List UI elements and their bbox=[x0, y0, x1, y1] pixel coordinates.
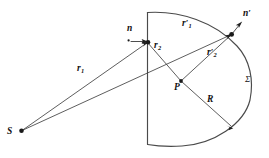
label-ray-r1-prime-subscript: 1 bbox=[188, 22, 191, 29]
optics-geometry-diagram: S P n n′ r1 r2 r′1 r′2 R Σ bbox=[0, 0, 269, 158]
normal-n-tail-dot bbox=[128, 39, 130, 41]
label-ray-r2-prime: r′2 bbox=[207, 48, 216, 58]
label-surface-sigma: Σ bbox=[245, 75, 250, 84]
source-point-dot bbox=[19, 129, 24, 134]
ray-r1-prime-line bbox=[22, 35, 232, 131]
label-ray-r2-subscript: 2 bbox=[158, 44, 161, 51]
label-field-point-p: P bbox=[174, 83, 180, 93]
ray-r1-line bbox=[22, 43, 148, 131]
ray-r2-prime-line bbox=[181, 35, 232, 82]
arc-surface-point-dot bbox=[229, 32, 234, 37]
label-ray-r1: r1 bbox=[77, 64, 84, 74]
radius-R-line bbox=[181, 81, 231, 126]
ray-r2-line bbox=[148, 43, 182, 82]
sigma-arc-surface bbox=[148, 12, 252, 146]
label-radius-r: R bbox=[207, 95, 213, 105]
plane-surface-point-dot bbox=[146, 40, 151, 45]
normal-n-prime-arrowhead bbox=[236, 22, 243, 29]
label-normal-n: n bbox=[127, 24, 132, 34]
label-ray-r2: r2 bbox=[154, 41, 161, 51]
label-source-s: S bbox=[7, 127, 12, 137]
label-ray-r1-prime: r′1 bbox=[182, 19, 191, 29]
label-normal-n-prime-mark: ′ bbox=[248, 8, 251, 18]
label-normal-n-prime: n′ bbox=[243, 9, 251, 19]
diagram-canvas bbox=[0, 0, 269, 158]
label-ray-r1-subscript: 1 bbox=[81, 67, 84, 74]
label-ray-r2-prime-subscript: 2 bbox=[213, 51, 216, 58]
